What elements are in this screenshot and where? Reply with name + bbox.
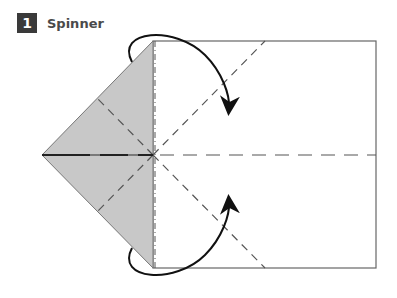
origami-diagram: [0, 0, 397, 298]
